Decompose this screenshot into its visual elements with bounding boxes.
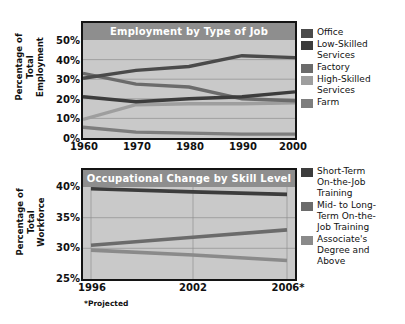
legend-label: Low-Skilled Services xyxy=(317,39,368,61)
legend-employment: Office Low-Skilled Services Factory High… xyxy=(301,27,405,109)
y-tick: 20% xyxy=(56,93,80,104)
chart-title-employment: Employment by Type of Job xyxy=(83,23,295,40)
plot-area-occupational: Occupational Change by Skill Level xyxy=(81,168,297,281)
series-mid-to-long-term-on-the-job-training xyxy=(91,230,287,245)
employment-lines-svg xyxy=(83,40,295,138)
y-tick: 30% xyxy=(56,242,80,253)
plot-canvas-occupational xyxy=(83,187,295,279)
legend-occupational: Short-Term On-the-Job Training Mid- to L… xyxy=(301,166,405,268)
legend-item[interactable]: Low-Skilled Services xyxy=(301,39,405,61)
legend-item[interactable]: Short-Term On-the-Job Training xyxy=(301,166,405,199)
series-farm xyxy=(83,127,295,134)
legend-swatch-office xyxy=(301,29,313,38)
series-factory xyxy=(83,73,295,101)
series-short-term-on-the-job-training xyxy=(91,189,287,195)
y-tick: 40% xyxy=(56,54,80,65)
legend-swatch-factory xyxy=(301,64,313,73)
legend-item[interactable]: Factory xyxy=(301,62,405,73)
legend-label: Short-Term On-the-Job Training xyxy=(317,166,365,199)
x-tick: 1960 xyxy=(70,141,98,152)
legend-swatch-short-term-training xyxy=(301,168,313,177)
x-tick: 1970 xyxy=(123,141,151,152)
legend-item[interactable]: Office xyxy=(301,27,405,38)
chart-occupational-change-by-skill-level: Percentage of Total Workforce 40% 35% 30… xyxy=(0,160,405,324)
legend-item[interactable]: Farm xyxy=(301,97,405,108)
legend-label: High-Skilled Services xyxy=(317,74,371,96)
plot-area-employment: Employment by Type of Job xyxy=(81,21,297,140)
x-tick: 2006* xyxy=(271,282,304,293)
x-tick: 2002 xyxy=(179,282,207,293)
legend-swatch-low-skilled-services xyxy=(301,41,313,50)
x-tick: 1980 xyxy=(176,141,204,152)
plot-canvas-employment xyxy=(83,40,295,138)
legend-item[interactable]: High-Skilled Services xyxy=(301,74,405,96)
y-axis-ticks: 40% 35% 30% 25% xyxy=(34,160,80,324)
legend-swatch-mid-to-long-term-training xyxy=(301,202,313,211)
legend-label: Associate's Degree and Above xyxy=(317,234,370,267)
legend-swatch-farm xyxy=(301,99,313,108)
y-tick: 10% xyxy=(56,113,80,124)
legend-swatch-high-skilled-services xyxy=(301,76,313,85)
chart-title-occupational: Occupational Change by Skill Level xyxy=(83,170,295,187)
legend-label: Office xyxy=(317,27,343,38)
series-associates-degree-and-above xyxy=(91,250,287,260)
legend-label: Mid- to Long- Term On-the- Job Training xyxy=(317,200,376,233)
y-tick: 30% xyxy=(56,74,80,85)
x-tick: 2000 xyxy=(279,141,307,152)
chart-footnote: *Projected xyxy=(84,299,128,308)
series-office xyxy=(83,56,295,78)
legend-item[interactable]: Associate's Degree and Above xyxy=(301,234,405,267)
x-axis-ticks: 1960 1970 1980 1990 2000 xyxy=(81,141,297,157)
x-tick: 1990 xyxy=(229,141,257,152)
series-high-skilled-services xyxy=(83,103,295,120)
legend-label: Farm xyxy=(317,97,339,108)
legend-item[interactable]: Mid- to Long- Term On-the- Job Training xyxy=(301,200,405,233)
x-tick: 1996 xyxy=(78,282,106,293)
y-tick: 25% xyxy=(56,273,80,284)
y-axis-ticks: 50% 40% 30% 20% 10% 0% xyxy=(34,0,80,160)
y-tick: 50% xyxy=(56,35,80,46)
occupational-lines-svg xyxy=(83,187,295,279)
y-tick: 35% xyxy=(56,211,80,222)
x-axis-ticks: 1996 2002 2006* xyxy=(81,282,297,298)
chart-employment-by-type-of-job: Percentage of Total Employment 50% 40% 3… xyxy=(0,0,405,160)
legend-label: Factory xyxy=(317,62,350,73)
y-tick: 40% xyxy=(56,181,80,192)
legend-swatch-associates-degree xyxy=(301,236,313,245)
